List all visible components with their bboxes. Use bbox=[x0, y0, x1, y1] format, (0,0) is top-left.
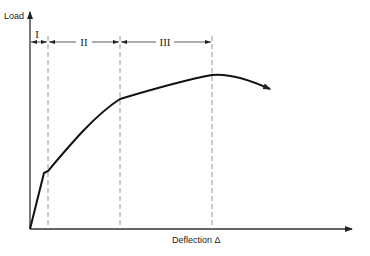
region-boundaries bbox=[48, 36, 212, 229]
region-I-label: I bbox=[35, 28, 39, 40]
region-II-label: II bbox=[80, 36, 88, 48]
load-deflection-diagram: I II III Load Deflection Δ bbox=[0, 0, 370, 256]
region-III-label: III bbox=[160, 36, 171, 48]
load-deflection-curve bbox=[30, 75, 270, 229]
x-axis-label: Deflection Δ bbox=[172, 235, 221, 245]
y-axis-label: Load bbox=[4, 11, 24, 21]
